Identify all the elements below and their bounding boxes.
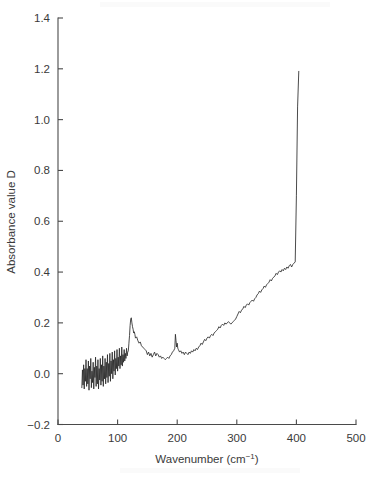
scan-artifact-bottom [120, 468, 300, 473]
x-tick-label: 500 [346, 432, 365, 444]
y-tick-label: 1.2 [34, 63, 50, 75]
y-tick-label: 0.4 [34, 266, 51, 278]
y-axis-title: Absorbance value D [5, 170, 17, 274]
x-tick-label: 400 [287, 432, 306, 444]
y-tick-label: 1.4 [34, 12, 51, 24]
y-tick-label: −0.2 [27, 419, 50, 431]
x-tick-label: 0 [55, 432, 61, 444]
absorbance-curve [82, 71, 299, 390]
absorbance-spectrum-chart: −0.20.00.20.40.60.81.01.21.4 01002003004… [0, 0, 381, 480]
y-tick-label: 1.0 [34, 114, 50, 126]
y-tick-label: 0.8 [34, 164, 50, 176]
x-tick-label: 200 [168, 432, 187, 444]
chart-figure: −0.20.00.20.40.60.81.01.21.4 01002003004… [0, 0, 381, 480]
x-tick-label: 100 [108, 432, 127, 444]
x-tick-label: 300 [227, 432, 246, 444]
y-tick-label: 0.6 [34, 215, 50, 227]
x-axis-title: Wavenumber (cm−1) [155, 452, 258, 465]
y-tick-label: 0.2 [34, 317, 50, 329]
scan-artifact-top [100, 2, 330, 7]
y-tick-label: 0.0 [34, 368, 50, 380]
x-axis-ticks: 0100200300400500 [55, 420, 366, 444]
